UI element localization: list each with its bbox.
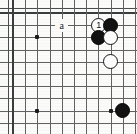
grid-line-horizontal — [0, 74, 137, 75]
point-label-a: a — [55, 19, 68, 32]
grid-line-vertical — [86, 0, 87, 134]
grid-line-horizontal — [0, 86, 137, 87]
grid-line-vertical — [25, 0, 26, 134]
grid-line-vertical — [74, 0, 75, 134]
star-point — [109, 109, 113, 113]
grid-line-vertical — [135, 0, 136, 134]
stone-black-c — [115, 103, 130, 118]
go-board-grid: a1 — [0, 0, 137, 134]
board-rim-top — [0, 8, 137, 9]
grid-line-horizontal — [0, 98, 137, 99]
stone-white-b — [103, 54, 118, 69]
go-diagram: a1 — [0, 0, 137, 134]
star-point — [35, 35, 39, 39]
grid-line-vertical — [37, 0, 38, 134]
grid-line-horizontal — [0, 123, 137, 124]
board-rim-left — [8, 0, 9, 134]
stone-white-a — [103, 30, 118, 45]
board-edge-top — [0, 12, 137, 14]
board-edge-left — [12, 0, 14, 134]
grid-line-vertical — [50, 0, 51, 134]
grid-line-horizontal — [0, 50, 137, 51]
star-point — [35, 109, 39, 113]
